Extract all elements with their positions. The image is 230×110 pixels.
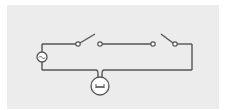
ac-source-icon [37, 52, 47, 62]
switch-right-contact-node [151, 42, 155, 46]
switch-left-blade [80, 34, 95, 43]
switch-right-pivot-node [173, 42, 177, 46]
lamp-icon [91, 77, 109, 95]
switch-left-contact-node [98, 42, 102, 46]
switch-left-pivot-node [76, 42, 80, 46]
switch-right-blade [161, 34, 173, 43]
wire-bottom-right [102, 70, 192, 77]
wire-bottom-left [42, 70, 98, 77]
circuit-diagram [0, 0, 230, 110]
